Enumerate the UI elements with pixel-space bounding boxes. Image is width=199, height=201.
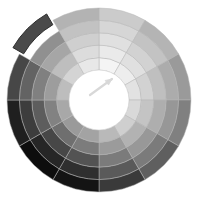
wheel-figure-canvas [0,0,199,201]
hub-disc [69,70,129,130]
hub-layer [69,70,129,130]
polar-wheel-chart[interactable] [0,0,199,201]
